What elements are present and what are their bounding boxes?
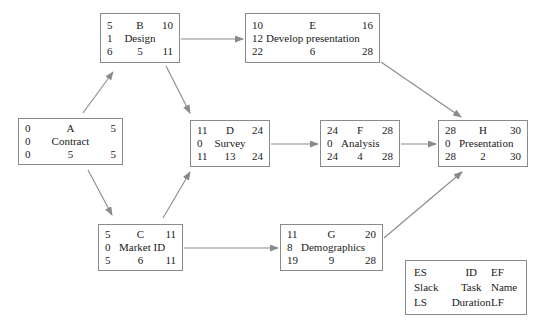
node-d-survey[interactable]: 11 D 24 0 Survey 11 13 24	[190, 120, 270, 167]
legend-duration-label: Duration	[451, 295, 491, 310]
legend-lf-label: LF	[491, 295, 518, 310]
node-a-contract[interactable]: 0 A 5 0 Contract 0 5 5	[18, 118, 123, 165]
node-f-id: F	[341, 124, 379, 137]
node-h-es: 28	[445, 124, 459, 137]
node-b-ef: 10	[159, 19, 173, 32]
legend-es-label: ES	[414, 265, 451, 280]
node-g-ls: 19	[287, 254, 301, 267]
node-row-top: 5 B 10	[107, 19, 173, 32]
edge-c-to-d	[163, 172, 190, 218]
node-d-es: 11	[197, 124, 211, 137]
node-a-ef: 5	[102, 122, 116, 135]
edge-a-to-c	[88, 170, 112, 215]
node-f-name: Analysis	[341, 137, 380, 150]
node-f-slack: 0	[327, 137, 341, 150]
node-f-es: 24	[327, 124, 341, 137]
node-row-bottom: 22 6 28	[252, 45, 373, 58]
edge-e-to-h	[381, 62, 461, 117]
legend-task-label: Task	[451, 280, 491, 295]
node-g-duration: 9	[301, 254, 362, 267]
node-a-name: Contract	[39, 135, 102, 148]
node-h-lf: 30	[507, 150, 521, 163]
node-row-top: 28 H 30	[445, 124, 521, 137]
node-row-middle: 8 Demographics	[287, 241, 376, 254]
node-f-lf: 28	[379, 150, 393, 163]
node-row-bottom: 6 5 11	[107, 45, 173, 58]
node-c-ls: 5	[105, 254, 119, 267]
legend-id-label: ID	[451, 265, 491, 280]
node-d-id: D	[211, 124, 249, 137]
legend-row-3: LS Duration LF	[414, 295, 518, 310]
node-b-id: B	[121, 19, 159, 32]
node-g-es: 11	[287, 228, 301, 241]
node-a-slack: 0	[25, 135, 39, 148]
node-row-bottom: 24 4 28	[327, 150, 393, 163]
legend-box: ES ID EF Slack Task Name LS Duration LF	[405, 260, 527, 315]
node-h-presentation[interactable]: 28 H 30 0 Presentation 28 2 30	[438, 120, 528, 167]
node-g-lf: 28	[362, 254, 376, 267]
node-f-duration: 4	[341, 150, 379, 163]
node-row-middle: 0 Presentation	[445, 137, 521, 150]
node-c-ef: 11	[162, 228, 176, 241]
legend-row-2: Slack Task Name	[414, 280, 518, 295]
node-f-ef: 28	[379, 124, 393, 137]
node-e-ls: 22	[252, 45, 266, 58]
node-b-ls: 6	[107, 45, 121, 58]
node-row-bottom: 0 5 5	[25, 148, 116, 161]
node-c-id: C	[119, 228, 162, 241]
node-b-slack: 1	[107, 32, 121, 45]
node-h-ls: 28	[445, 150, 459, 163]
node-b-es: 5	[107, 19, 121, 32]
legend-row-1: ES ID EF	[414, 265, 518, 280]
node-b-lf: 11	[159, 45, 173, 58]
edge-a-to-b	[83, 72, 113, 113]
node-row-bottom: 19 9 28	[287, 254, 376, 267]
node-c-market-id[interactable]: 5 C 11 0 Market ID 5 6 11	[98, 224, 183, 271]
node-d-lf: 24	[249, 150, 263, 163]
node-row-middle: 0 Survey	[197, 137, 263, 150]
node-e-ef: 16	[359, 19, 373, 32]
node-g-slack: 8	[287, 241, 301, 254]
node-h-slack: 0	[445, 137, 459, 150]
node-b-design[interactable]: 5 B 10 1 Design 6 5 11	[100, 13, 180, 63]
node-h-id: H	[459, 124, 507, 137]
node-g-ef: 20	[362, 228, 376, 241]
node-e-duration: 6	[266, 45, 359, 58]
node-row-middle: 0 Analysis	[327, 137, 393, 150]
node-row-top: 11 D 24	[197, 124, 263, 137]
node-g-name: Demographics	[301, 241, 365, 254]
node-f-analysis[interactable]: 24 F 28 0 Analysis 24 4 28	[320, 120, 400, 167]
node-e-es: 10	[252, 19, 266, 32]
node-g-id: G	[301, 228, 362, 241]
node-c-es: 5	[105, 228, 119, 241]
node-row-middle: 0 Market ID	[105, 241, 176, 254]
node-h-ef: 30	[507, 124, 521, 137]
node-f-ls: 24	[327, 150, 341, 163]
node-row-bottom: 11 13 24	[197, 150, 263, 163]
node-d-name: Survey	[211, 137, 249, 150]
node-a-id: A	[39, 122, 102, 135]
node-a-lf: 5	[102, 148, 116, 161]
node-row-middle: 1 Design	[107, 32, 173, 45]
node-row-middle: 12 Develop presentation	[252, 32, 373, 45]
node-row-top: 10 E 16	[252, 19, 373, 32]
node-row-bottom: 5 6 11	[105, 254, 176, 267]
legend-name-label: Name	[491, 280, 518, 295]
legend-slack-label: Slack	[414, 280, 451, 295]
node-c-slack: 0	[105, 241, 119, 254]
node-d-ls: 11	[197, 150, 211, 163]
edge-g-to-h	[384, 172, 462, 238]
node-e-slack: 12	[252, 32, 266, 45]
node-d-duration: 13	[211, 150, 249, 163]
node-c-duration: 6	[119, 254, 162, 267]
node-h-name: Presentation	[459, 137, 513, 150]
network-diagram-canvas: 0 A 5 0 Contract 0 5 5 5 B 10 1 Design 6…	[0, 0, 538, 323]
legend-ls-label: LS	[414, 295, 451, 310]
node-e-develop-presentation[interactable]: 10 E 16 12 Develop presentation 22 6 28	[245, 13, 380, 63]
node-e-id: E	[266, 19, 359, 32]
node-d-ef: 24	[249, 124, 263, 137]
node-g-demographics[interactable]: 11 G 20 8 Demographics 19 9 28	[280, 224, 383, 271]
node-row-top: 11 G 20	[287, 228, 376, 241]
node-row-middle: 0 Contract	[25, 135, 116, 148]
node-e-lf: 28	[359, 45, 373, 58]
